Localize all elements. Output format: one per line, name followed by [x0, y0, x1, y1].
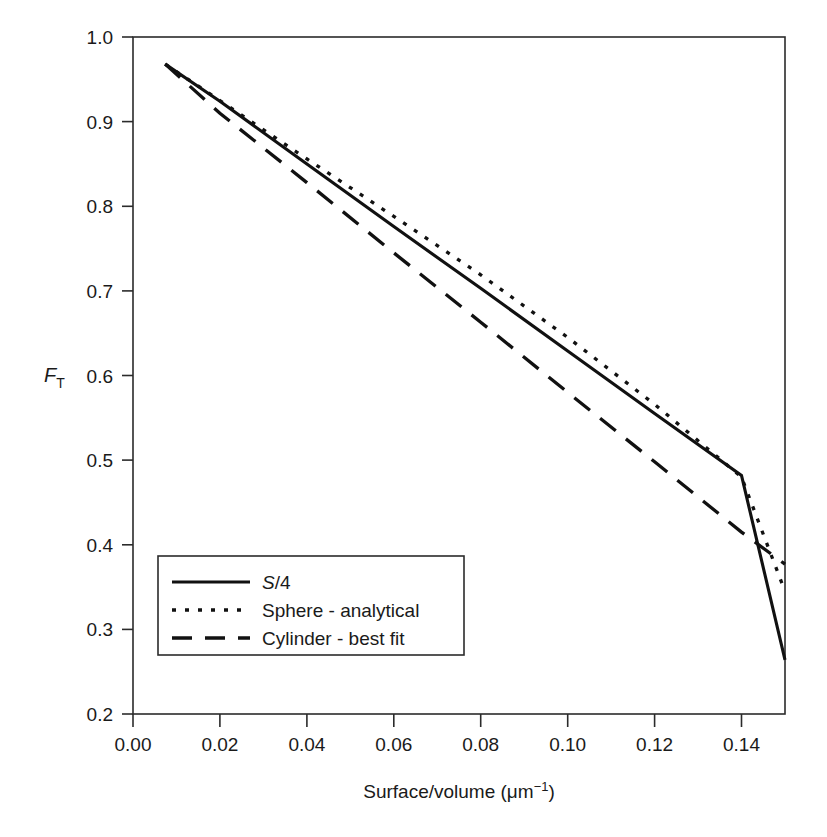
- x-tick-group-3: 0.06: [375, 714, 412, 755]
- x-tick-label: 0.12: [636, 734, 673, 755]
- x-axis: 0.00 0.02 0.04 0.06 0.08 0.10: [115, 714, 761, 755]
- y-axis: 0.2 0.3 0.4 0.5 0.6 0.7: [87, 27, 133, 725]
- y-tick-label: 0.3: [87, 619, 113, 640]
- x-axis-title-base: Surface/volume (: [363, 781, 507, 802]
- x-tick-group-6: 0.12: [636, 714, 673, 755]
- y-tick-group-2: 0.4: [87, 535, 133, 556]
- x-tick-label: 0.02: [201, 734, 238, 755]
- y-tick-label: 0.7: [87, 281, 113, 302]
- x-tick-group-2: 0.04: [288, 714, 325, 755]
- y-tick-label: 1.0: [87, 27, 113, 48]
- y-tick-group-1: 0.3: [87, 619, 133, 640]
- y-tick-group-5: 0.7: [87, 281, 133, 302]
- legend-label-sphere-analytical: Sphere - analytical: [262, 600, 419, 621]
- x-tick-group-5: 0.10: [549, 714, 586, 755]
- y-axis-title-text: FT: [44, 364, 65, 391]
- y-tick-label: 0.8: [87, 196, 113, 217]
- y-tick-label: 0.6: [87, 366, 113, 387]
- x-axis-title-text: Surface/volume (μm−1): [363, 779, 555, 802]
- x-axis-title-close: ): [548, 781, 554, 802]
- x-tick-label: 0.14: [723, 734, 760, 755]
- x-tick-group-4: 0.08: [462, 714, 499, 755]
- series-line-sphere-analytical: [165, 64, 785, 591]
- y-axis-title: FT: [44, 364, 65, 391]
- y-tick-group-4: 0.6: [87, 366, 133, 387]
- chart-svg: 0.2 0.3 0.4 0.5 0.6 0.7: [0, 0, 827, 837]
- y-tick-group-3: 0.5: [87, 450, 133, 471]
- legend-label-italic-part: S: [262, 572, 275, 593]
- x-tick-label: 0.06: [375, 734, 412, 755]
- y-tick-label: 0.2: [87, 704, 113, 725]
- x-tick-label: 0.04: [288, 734, 325, 755]
- y-tick-group-0: 0.2: [87, 704, 133, 725]
- x-tick-group-0: 0.00: [115, 714, 152, 755]
- x-tick-group-7: 0.14: [723, 714, 760, 755]
- x-tick-label: 0.10: [549, 734, 586, 755]
- legend: S/4 Sphere - analytical Cylinder - best …: [158, 556, 464, 655]
- y-tick-label: 0.9: [87, 112, 113, 133]
- legend-label-s-over-4: S/4: [262, 572, 291, 593]
- y-axis-title-sub: T: [56, 375, 65, 391]
- y-tick-label: 0.5: [87, 450, 113, 471]
- y-tick-group-8: 1.0: [87, 27, 133, 48]
- chart-figure: 0.2 0.3 0.4 0.5 0.6 0.7: [0, 0, 827, 837]
- x-tick-label: 0.08: [462, 734, 499, 755]
- legend-label-cylinder-best-fit: Cylinder - best fit: [262, 628, 405, 649]
- x-axis-title-exponent: −1: [534, 779, 549, 794]
- x-tick-group-1: 0.02: [201, 714, 238, 755]
- x-axis-title-unit: μm: [507, 781, 534, 802]
- y-tick-label: 0.4: [87, 535, 114, 556]
- x-tick-label: 0.00: [115, 734, 152, 755]
- y-tick-group-6: 0.8: [87, 196, 133, 217]
- y-tick-group-7: 0.9: [87, 112, 133, 133]
- series-line-cylinder-best-fit: [165, 64, 785, 564]
- legend-label-rest: /4: [275, 572, 291, 593]
- x-axis-title: Surface/volume (μm−1): [363, 779, 555, 802]
